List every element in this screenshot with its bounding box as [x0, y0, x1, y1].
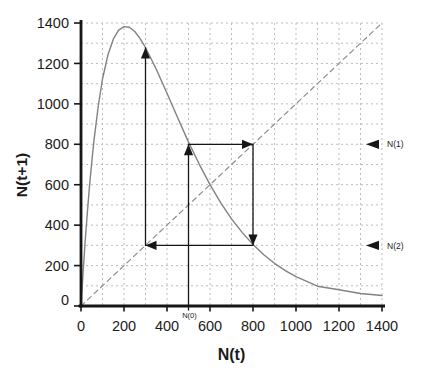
x-tick-label: 1000	[280, 318, 312, 334]
annotation-arrowhead-N(1)	[366, 140, 379, 149]
x-tick-label: 600	[198, 318, 222, 334]
annotation-arrowhead-N(2)	[366, 241, 379, 250]
y-tick-label: 0	[61, 292, 69, 308]
y-tick-label: 200	[45, 258, 69, 274]
cobweb-arrowhead-left	[146, 241, 157, 250]
x-tick-label: 800	[241, 318, 265, 334]
y-tick-label: 400	[45, 217, 69, 233]
plot-canvas: 0200400600800100012001400020040060080010…	[0, 0, 421, 382]
cobweb-arrowhead-right	[242, 140, 253, 149]
cobweb-plot-figure: 0200400600800100012001400020040060080010…	[0, 0, 421, 382]
y-tick-label: 1200	[37, 56, 69, 72]
annotation-label-N(1): N(1)	[387, 139, 404, 149]
annotation-label-N(0): N(0)	[182, 311, 197, 320]
y-axis-title: N(t+1)	[13, 153, 31, 197]
y-tick-label: 600	[45, 177, 69, 193]
x-tick-label: 200	[112, 318, 136, 334]
x-tick-label: 1400	[366, 318, 398, 334]
cobweb-path	[146, 48, 254, 311]
x-tick-label: 0	[77, 318, 85, 334]
x-tick-label: 400	[155, 318, 179, 334]
y-tick-label: 800	[45, 136, 69, 152]
y-tick-label: 1000	[37, 96, 69, 112]
x-tick-label: 1200	[323, 318, 355, 334]
y-tick-label: 1400	[37, 15, 69, 31]
annotation-label-N(2): N(2)	[387, 241, 404, 251]
x-axis-title: N(t)	[81, 346, 382, 364]
